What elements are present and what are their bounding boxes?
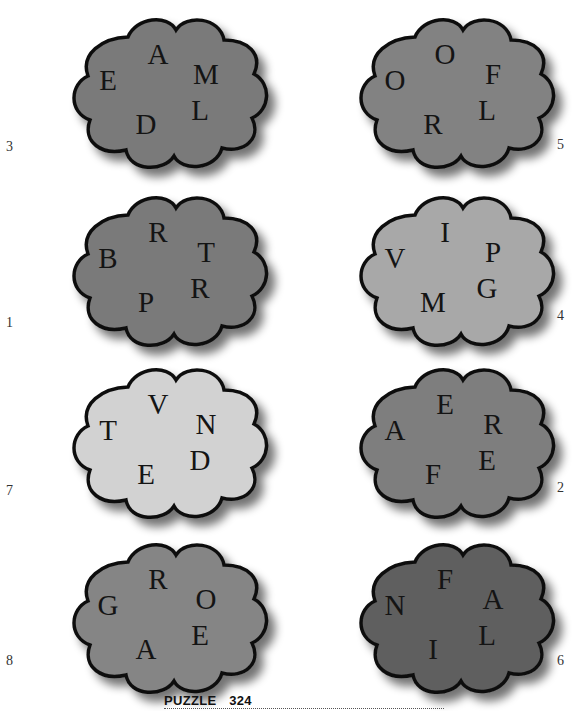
cloud-shape-icon [58,12,278,172]
cloud-letter: V [148,390,169,419]
puzzle-number-label: 6 [557,654,564,668]
cloud-letter: E [436,390,454,419]
dotted-divider [164,708,444,709]
cloud-letter: L [478,621,496,650]
cloud-letter: R [190,274,209,303]
cloud-puzzle-3: AEMLD [58,12,278,172]
puzzle-number-label: 4 [557,309,564,323]
cloud-letter: A [385,416,406,445]
cloud-puzzle-8: RGOEA [58,537,278,697]
cloud-puzzle-4: IVPGM [345,190,565,350]
puzzle-number-label: 2 [557,481,564,495]
cloud-shape-icon [58,190,278,350]
cloud-letter: O [435,40,456,69]
cloud-puzzle-1: RBTRP [58,190,278,350]
cloud-letter: M [420,288,446,317]
cloud-letter: E [99,66,117,95]
cloud-letter: O [196,585,217,614]
cloud-letter: G [98,591,119,620]
cloud-letter: A [136,635,157,664]
cloud-letter: B [98,244,117,273]
cloud-shape-icon [345,362,565,522]
cloud-letter: V [385,244,406,273]
cloud-puzzle-5: OOFLR [345,12,565,172]
cloud-letter: I [428,635,438,664]
cloud-puzzle-7: VTNDE [58,362,278,522]
puzzle-number-label: 7 [6,484,13,498]
cloud-letter: T [197,238,215,267]
cloud-letter: R [423,110,442,139]
cloud-puzzle-6: FNALI [345,537,565,697]
cloud-letter: L [478,96,496,125]
cloud-letter: N [196,410,217,439]
cloud-letter: O [385,66,406,95]
cloud-letter: D [136,110,157,139]
puzzle-number-label: 8 [6,654,13,668]
puzzle-number-label: 1 [6,316,13,330]
cloud-letter: A [483,585,504,614]
cloud-letter: N [385,591,406,620]
cloud-letter: D [190,446,211,475]
cloud-puzzle-2: EAREF [345,362,565,522]
cloud-letter: F [425,460,441,489]
cloud-letter: R [148,565,167,594]
cloud-shape-icon [345,190,565,350]
cloud-letter: A [148,40,169,69]
cloud-letter: R [483,410,502,439]
puzzle-number-label: 5 [557,138,564,152]
cloud-letter: F [485,60,501,89]
cloud-letter: L [191,96,209,125]
cloud-letter: M [193,60,219,89]
cloud-letter: E [137,460,155,489]
cloud-letter: F [437,565,453,594]
cloud-letter: T [99,416,117,445]
cloud-letter: P [138,288,154,317]
cloud-letter: E [478,446,496,475]
puzzle-number-label: 3 [6,140,13,154]
cloud-shape-icon [345,537,565,697]
cloud-letter: G [477,274,498,303]
puzzle-footer: PUZZLE 324 [164,691,464,709]
cloud-letter: P [485,238,501,267]
cloud-letter: I [440,218,450,247]
cloud-letter: R [148,218,167,247]
cloud-letter: E [191,621,209,650]
cloud-shape-icon [345,12,565,172]
cloud-shape-icon [58,537,278,697]
puzzle-title: PUZZLE 324 [164,693,252,708]
cloud-shape-icon [58,362,278,522]
